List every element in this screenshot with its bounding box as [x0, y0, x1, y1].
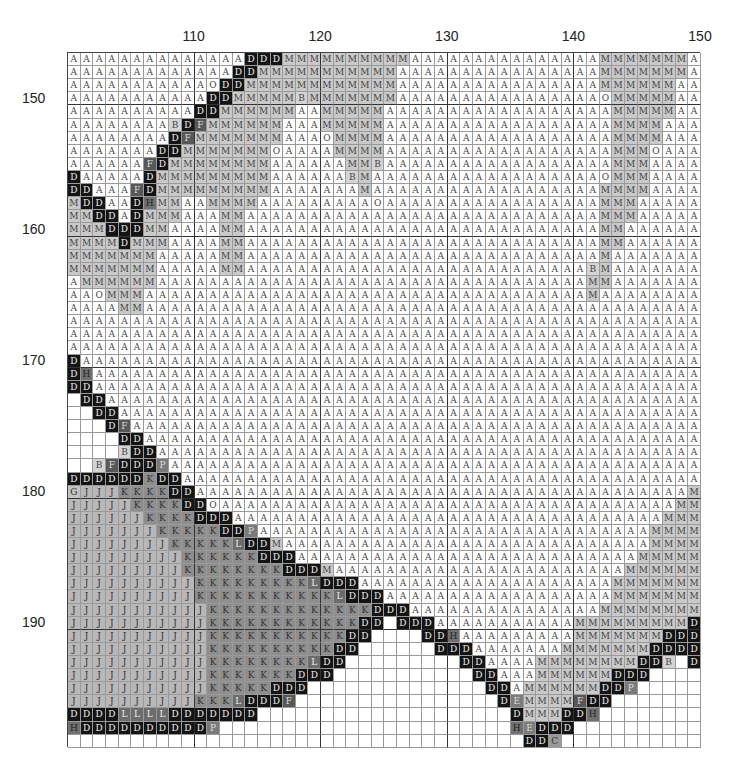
grid-cell: A	[536, 223, 549, 236]
grid-cell: M	[625, 145, 638, 158]
grid-cell: O	[600, 92, 613, 105]
grid-cell: A	[245, 473, 258, 486]
grid-cell: A	[435, 459, 448, 472]
grid-cell: A	[81, 145, 94, 158]
grid-cell: A	[612, 407, 625, 420]
grid-cell: A	[676, 289, 689, 302]
grid-row: JJJJJJKKKKDDDAAAAAAAAAAAAAAAAAAAAAAAAAAA…	[68, 512, 699, 525]
grid-row: AAOMMMAAAAAAAAAAAAAAAAAAAAAAAAAAAAAAAAAA…	[68, 289, 699, 302]
grid-cell: K	[271, 590, 284, 603]
grid-cell: A	[498, 604, 511, 617]
grid-cell: A	[68, 92, 81, 105]
grid-cell: A	[600, 499, 613, 512]
grid-cell: A	[296, 486, 309, 499]
grid-cell: A	[663, 132, 676, 145]
grid-cell	[359, 682, 372, 695]
grid-cell: K	[258, 643, 271, 656]
grid-cell: A	[283, 289, 296, 302]
grid-cell: M	[574, 630, 587, 643]
grid-cell: D	[245, 708, 258, 721]
grid-cell: A	[321, 420, 334, 433]
grid-cell: A	[435, 577, 448, 590]
grid-cell: A	[524, 368, 537, 381]
grid-cell: A	[296, 197, 309, 210]
grid-cell: K	[334, 604, 347, 617]
grid-cell: A	[625, 381, 638, 394]
grid-cell: A	[663, 250, 676, 263]
grid-cell: J	[131, 630, 144, 643]
grid-cell: J	[157, 682, 170, 695]
grid-cell: A	[663, 368, 676, 381]
grid-cell: A	[536, 105, 549, 118]
grid-cell: A	[524, 630, 537, 643]
grid-cell: A	[448, 551, 461, 564]
grid-cell: A	[321, 368, 334, 381]
grid-cell: A	[182, 79, 195, 92]
grid-cell: A	[435, 132, 448, 145]
grid-cell: A	[233, 328, 246, 341]
grid-cell: A	[182, 394, 195, 407]
grid-cell: M	[638, 184, 651, 197]
grid-cell: D	[638, 669, 651, 682]
grid-cell: M	[612, 145, 625, 158]
grid-cell: M	[600, 237, 613, 250]
grid-cell: A	[422, 197, 435, 210]
grid-cell: A	[473, 381, 486, 394]
grid-cell: A	[536, 289, 549, 302]
grid-cell: D	[650, 643, 663, 656]
grid-cell: M	[612, 656, 625, 669]
grid-cell: A	[81, 355, 94, 368]
grid-cell: K	[283, 656, 296, 669]
grid-cell: M	[562, 643, 575, 656]
grid-cell: K	[245, 682, 258, 695]
grid-cell: J	[106, 630, 119, 643]
grid-cell: A	[448, 459, 461, 472]
grid-cell: A	[688, 289, 701, 302]
grid-cell: A	[587, 486, 600, 499]
grid-cell	[321, 682, 334, 695]
grid-cell: A	[587, 368, 600, 381]
grid-cell: A	[435, 551, 448, 564]
grid-cell: A	[81, 302, 94, 315]
grid-cell: A	[220, 355, 233, 368]
grid-cell: D	[587, 695, 600, 708]
grid-cell: A	[157, 368, 170, 381]
grid-cell	[448, 722, 461, 735]
grid-cell: A	[296, 132, 309, 145]
grid-cell: A	[144, 355, 157, 368]
grid-cell: A	[93, 53, 106, 66]
grid-cell: A	[435, 289, 448, 302]
grid-cell: A	[574, 105, 587, 118]
grid-cell: A	[321, 263, 334, 276]
grid-cell: A	[486, 564, 499, 577]
grid-cell: M	[625, 604, 638, 617]
grid-cell: A	[372, 368, 385, 381]
grid-cell: A	[233, 473, 246, 486]
grid-cell: A	[574, 250, 587, 263]
grid-cell: A	[346, 459, 359, 472]
grid-cell: K	[271, 617, 284, 630]
grid-cell: K	[119, 486, 132, 499]
grid-cell: M	[182, 145, 195, 158]
grid-cell: D	[473, 669, 486, 682]
grid-cell: D	[195, 105, 208, 118]
grid-cell: D	[182, 708, 195, 721]
grid-cell: A	[676, 171, 689, 184]
grid-cell: A	[612, 551, 625, 564]
grid-cell: A	[397, 381, 410, 394]
grid-cell: D	[271, 695, 284, 708]
grid-cell: A	[182, 276, 195, 289]
grid-cell: A	[422, 92, 435, 105]
grid-cell: A	[625, 355, 638, 368]
grid-cell: A	[410, 551, 423, 564]
grid-cell: A	[397, 433, 410, 446]
grid-cell: A	[473, 105, 486, 118]
grid-cell: A	[650, 210, 663, 223]
grid-cell: A	[498, 368, 511, 381]
grid-cell: A	[448, 210, 461, 223]
grid-cell: A	[486, 420, 499, 433]
grid-cell	[448, 695, 461, 708]
grid-cell	[372, 735, 385, 748]
grid-cell: K	[220, 682, 233, 695]
grid-cell: A	[207, 210, 220, 223]
